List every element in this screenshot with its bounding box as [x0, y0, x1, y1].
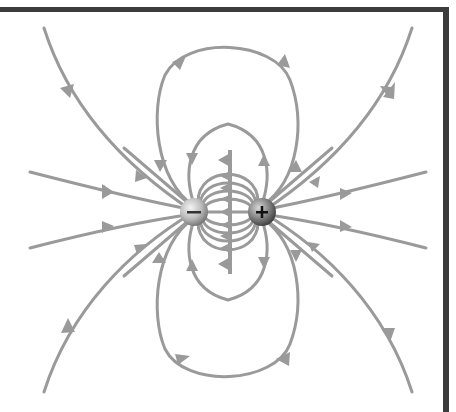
positive-charge [248, 198, 276, 226]
dipole-field-diagram [0, 0, 456, 412]
field-line-upper-left [44, 28, 194, 212]
field-line-right-lower [262, 214, 426, 248]
frame-border-right [443, 7, 449, 412]
negative-charge [180, 198, 208, 226]
frame-border-top [0, 7, 449, 12]
field-line-left-lower [30, 214, 194, 248]
center-arrow-column [218, 150, 232, 274]
arrow-icon [60, 84, 74, 98]
